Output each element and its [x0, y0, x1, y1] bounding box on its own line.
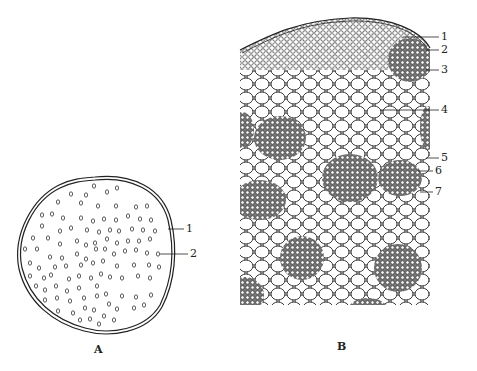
panel-b-label-3: 3	[441, 64, 448, 75]
stem-cross-section-outline	[0, 150, 230, 371]
panel-a-caption: A	[94, 343, 103, 356]
panel-b-label-7: 7	[435, 186, 442, 197]
panel-b: 1 2 3 4 5 6 7 B	[230, 0, 477, 371]
panel-a: 1 2 A	[0, 150, 230, 371]
panel-b-label-2: 2	[441, 44, 448, 55]
panel-b-label-6: 6	[435, 165, 442, 176]
panel-b-caption: B	[337, 340, 346, 353]
panel-b-label-1: 1	[441, 31, 448, 42]
panel-a-label-1: 1	[186, 223, 193, 234]
panel-b-label-4: 4	[441, 104, 448, 115]
vascular-bundles	[23, 184, 160, 326]
panel-b-label-5: 5	[441, 152, 448, 163]
panel-a-label-2: 2	[190, 248, 197, 259]
